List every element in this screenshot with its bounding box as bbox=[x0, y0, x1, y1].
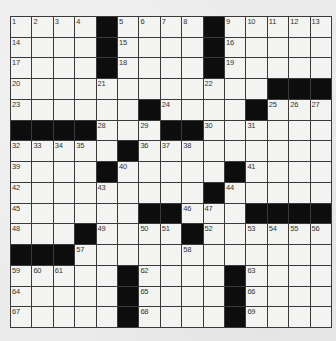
crossword-cell[interactable]: 38 bbox=[182, 141, 202, 161]
crossword-cell[interactable] bbox=[54, 204, 74, 224]
crossword-cell[interactable]: 42 bbox=[11, 183, 31, 203]
crossword-cell[interactable] bbox=[182, 58, 202, 78]
crossword-cell[interactable] bbox=[225, 79, 245, 99]
crossword-cell[interactable]: 32 bbox=[11, 141, 31, 161]
crossword-cell[interactable] bbox=[182, 79, 202, 99]
crossword-cell[interactable] bbox=[225, 245, 245, 265]
crossword-cell[interactable] bbox=[204, 100, 224, 120]
crossword-cell[interactable] bbox=[182, 266, 202, 286]
crossword-cell[interactable] bbox=[75, 100, 95, 120]
crossword-cell[interactable] bbox=[54, 58, 74, 78]
crossword-cell[interactable]: 52 bbox=[204, 224, 224, 244]
crossword-cell[interactable]: 62 bbox=[139, 266, 159, 286]
crossword-cell[interactable]: 28 bbox=[97, 121, 117, 141]
crossword-cell[interactable] bbox=[32, 58, 52, 78]
crossword-cell[interactable] bbox=[311, 121, 331, 141]
crossword-cell[interactable] bbox=[161, 58, 181, 78]
crossword-cell[interactable] bbox=[97, 100, 117, 120]
crossword-cell[interactable] bbox=[311, 183, 331, 203]
crossword-cell[interactable] bbox=[161, 38, 181, 58]
crossword-cell[interactable] bbox=[182, 287, 202, 307]
crossword-cell[interactable] bbox=[161, 307, 181, 327]
crossword-cell[interactable] bbox=[204, 162, 224, 182]
crossword-cell[interactable]: 66 bbox=[246, 287, 266, 307]
crossword-cell[interactable]: 67 bbox=[11, 307, 31, 327]
crossword-cell[interactable] bbox=[75, 266, 95, 286]
crossword-cell[interactable] bbox=[54, 38, 74, 58]
crossword-cell[interactable] bbox=[268, 266, 288, 286]
crossword-cell[interactable]: 49 bbox=[97, 224, 117, 244]
crossword-cell[interactable] bbox=[32, 183, 52, 203]
crossword-cell[interactable]: 17 bbox=[11, 58, 31, 78]
crossword-cell[interactable]: 16 bbox=[225, 38, 245, 58]
crossword-cell[interactable] bbox=[246, 245, 266, 265]
crossword-cell[interactable] bbox=[75, 58, 95, 78]
crossword-cell[interactable] bbox=[54, 79, 74, 99]
crossword-cell[interactable]: 24 bbox=[161, 100, 181, 120]
crossword-cell[interactable]: 35 bbox=[75, 141, 95, 161]
crossword-cell[interactable] bbox=[32, 38, 52, 58]
crossword-cell[interactable] bbox=[204, 307, 224, 327]
crossword-cell[interactable] bbox=[246, 58, 266, 78]
crossword-cell[interactable] bbox=[75, 38, 95, 58]
crossword-cell[interactable] bbox=[118, 121, 138, 141]
crossword-cell[interactable] bbox=[246, 79, 266, 99]
crossword-cell[interactable]: 8 bbox=[182, 17, 202, 37]
crossword-cell[interactable]: 14 bbox=[11, 38, 31, 58]
crossword-cell[interactable] bbox=[161, 79, 181, 99]
crossword-cell[interactable] bbox=[289, 162, 309, 182]
crossword-cell[interactable] bbox=[161, 245, 181, 265]
crossword-cell[interactable] bbox=[118, 245, 138, 265]
crossword-cell[interactable] bbox=[311, 266, 331, 286]
crossword-cell[interactable]: 33 bbox=[32, 141, 52, 161]
crossword-cell[interactable]: 69 bbox=[246, 307, 266, 327]
crossword-cell[interactable]: 26 bbox=[289, 100, 309, 120]
crossword-cell[interactable]: 47 bbox=[204, 204, 224, 224]
crossword-cell[interactable]: 55 bbox=[289, 224, 309, 244]
crossword-cell[interactable]: 53 bbox=[246, 224, 266, 244]
crossword-cell[interactable] bbox=[182, 38, 202, 58]
crossword-cell[interactable]: 10 bbox=[246, 17, 266, 37]
crossword-cell[interactable] bbox=[139, 79, 159, 99]
crossword-cell[interactable]: 30 bbox=[204, 121, 224, 141]
crossword-cell[interactable] bbox=[54, 307, 74, 327]
crossword-cell[interactable]: 22 bbox=[204, 79, 224, 99]
crossword-cell[interactable] bbox=[97, 245, 117, 265]
crossword-cell[interactable] bbox=[225, 121, 245, 141]
crossword-cell[interactable] bbox=[246, 183, 266, 203]
crossword-cell[interactable] bbox=[139, 183, 159, 203]
crossword-cell[interactable]: 19 bbox=[225, 58, 245, 78]
crossword-cell[interactable] bbox=[32, 79, 52, 99]
crossword-cell[interactable] bbox=[268, 287, 288, 307]
crossword-cell[interactable]: 21 bbox=[97, 79, 117, 99]
crossword-cell[interactable] bbox=[32, 307, 52, 327]
crossword-cell[interactable]: 45 bbox=[11, 204, 31, 224]
crossword-cell[interactable]: 60 bbox=[32, 266, 52, 286]
crossword-cell[interactable] bbox=[225, 141, 245, 161]
crossword-cell[interactable] bbox=[268, 121, 288, 141]
crossword-cell[interactable] bbox=[246, 141, 266, 161]
crossword-cell[interactable]: 44 bbox=[225, 183, 245, 203]
crossword-cell[interactable]: 5 bbox=[118, 17, 138, 37]
crossword-cell[interactable] bbox=[311, 162, 331, 182]
crossword-cell[interactable] bbox=[75, 183, 95, 203]
crossword-cell[interactable]: 3 bbox=[54, 17, 74, 37]
crossword-cell[interactable] bbox=[97, 266, 117, 286]
crossword-cell[interactable] bbox=[311, 38, 331, 58]
crossword-cell[interactable]: 46 bbox=[182, 204, 202, 224]
crossword-cell[interactable]: 12 bbox=[289, 17, 309, 37]
crossword-cell[interactable] bbox=[118, 79, 138, 99]
crossword-cell[interactable]: 18 bbox=[118, 58, 138, 78]
crossword-cell[interactable] bbox=[182, 100, 202, 120]
crossword-cell[interactable] bbox=[268, 183, 288, 203]
crossword-cell[interactable] bbox=[311, 307, 331, 327]
crossword-cell[interactable]: 63 bbox=[246, 266, 266, 286]
crossword-cell[interactable]: 15 bbox=[118, 38, 138, 58]
crossword-cell[interactable]: 54 bbox=[268, 224, 288, 244]
crossword-cell[interactable] bbox=[289, 183, 309, 203]
crossword-cell[interactable] bbox=[311, 141, 331, 161]
crossword-cell[interactable] bbox=[289, 287, 309, 307]
crossword-cell[interactable] bbox=[289, 307, 309, 327]
crossword-cell[interactable]: 61 bbox=[54, 266, 74, 286]
crossword-cell[interactable]: 34 bbox=[54, 141, 74, 161]
